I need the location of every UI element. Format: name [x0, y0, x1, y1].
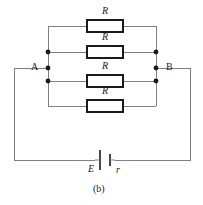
junction-dot-left-upper: [46, 50, 51, 55]
figure-caption: (b): [93, 184, 105, 194]
node-b-label: B: [166, 62, 173, 72]
resistor-r2-label: R: [102, 32, 108, 42]
battery-symbol: [95, 150, 115, 170]
junction-dot-left-node-a: [46, 66, 51, 71]
resistor-r2-body: [87, 46, 123, 58]
resistor-r4-body: [87, 100, 123, 112]
junction-dot-right-upper: [154, 50, 159, 55]
internal-resistance-label: r: [116, 165, 120, 175]
circuit-figure: R R R R A B E r (b): [0, 0, 203, 205]
resistor-r3-label: R: [102, 61, 108, 71]
wire-outer-loop-left: [14, 68, 95, 160]
junction-dot-right-node-b: [154, 66, 159, 71]
resistor-r1-label: R: [102, 6, 108, 16]
emf-label: E: [88, 164, 94, 174]
junction-dot-right-lower: [154, 79, 159, 84]
node-a-label: A: [31, 62, 38, 72]
wire-outer-loop-right: [115, 68, 190, 160]
resistor-r4-label: R: [102, 86, 108, 96]
junction-dot-left-lower: [46, 79, 51, 84]
